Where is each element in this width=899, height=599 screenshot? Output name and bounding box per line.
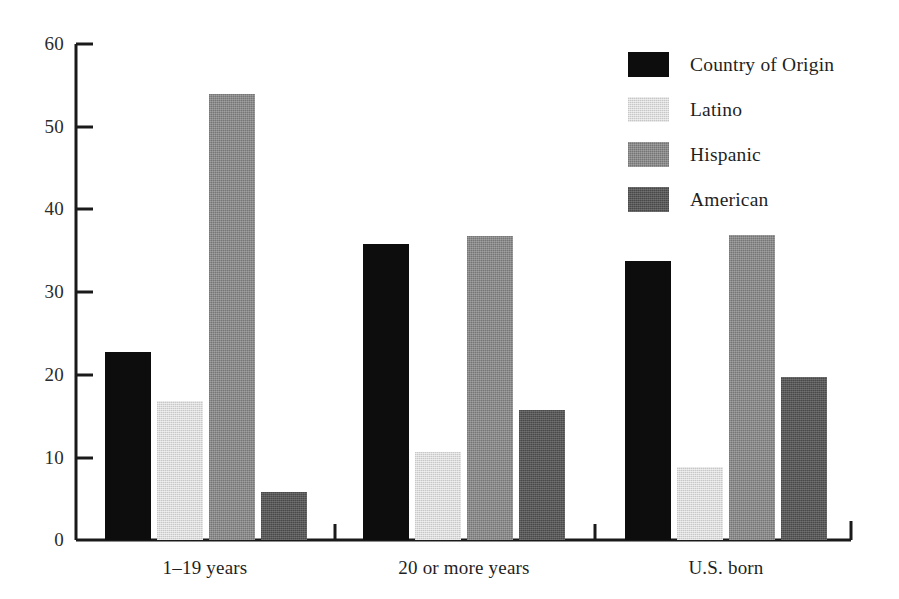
legend-item-latino: Latino	[628, 87, 878, 132]
bar-u-s-born-american	[781, 377, 827, 540]
bar-1-19-years-latino	[157, 401, 203, 540]
bar-20-or-more-years-country-of-origin	[363, 244, 409, 540]
bar-20-or-more-years-american	[519, 410, 565, 540]
bar-20-or-more-years-latino	[415, 452, 461, 540]
legend-label-american: American	[690, 190, 768, 210]
bar-u-s-born-latino	[677, 467, 723, 540]
bar-u-s-born-hispanic	[729, 235, 775, 540]
bar-1-19-years-hispanic	[209, 94, 255, 540]
bar-u-s-born-country-of-origin	[625, 261, 671, 540]
bar-1-19-years-american	[261, 492, 307, 540]
plot-area: 60 50 40 30 20 10 0 1–19 years 20 or mor…	[0, 0, 899, 599]
legend-swatch-icon-american	[628, 187, 669, 212]
x-category-label-3: U.S. born	[626, 557, 826, 579]
legend-item-hispanic: Hispanic	[628, 132, 878, 177]
x-category-label-2: 20 or more years	[364, 557, 564, 579]
bar-1-19-years-country-of-origin	[105, 352, 151, 540]
legend: Country of Origin Latino Hispanic Americ…	[628, 42, 878, 222]
x-category-label-1: 1–19 years	[105, 557, 305, 579]
legend-swatch-icon-country-of-origin	[628, 52, 669, 77]
legend-label-hispanic: Hispanic	[690, 145, 761, 165]
legend-label-latino: Latino	[690, 100, 742, 120]
legend-item-country-of-origin: Country of Origin	[628, 42, 878, 87]
legend-swatch-icon-latino	[628, 97, 669, 122]
legend-label-country-of-origin: Country of Origin	[690, 55, 834, 75]
bar-chart: 60 50 40 30 20 10 0 1–19 years 20 or mor…	[0, 0, 899, 599]
legend-item-american: American	[628, 177, 878, 222]
bar-20-or-more-years-hispanic	[467, 236, 513, 540]
legend-swatch-icon-hispanic	[628, 142, 669, 167]
